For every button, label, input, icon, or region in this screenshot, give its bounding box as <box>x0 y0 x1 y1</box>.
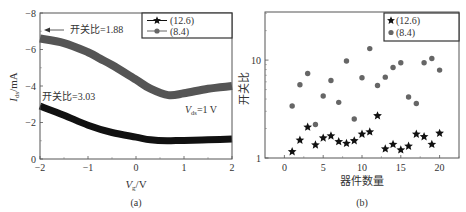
x-tick-label: 0 <box>134 162 139 173</box>
annotation-on-off-ratio-188: 开关比=1.88 <box>70 23 123 35</box>
star-data-point <box>427 140 436 148</box>
curve-8-4 <box>40 39 232 96</box>
y-tick-label: 0 <box>31 154 36 165</box>
panel-b-points <box>288 46 444 155</box>
circle-data-point <box>321 93 326 98</box>
star-data-point <box>358 130 367 138</box>
star-data-point <box>334 137 343 145</box>
star-data-point <box>381 144 390 152</box>
legend-label-12-6: (12.6) <box>396 15 420 27</box>
panel-a-legend: (12.6) (8.4) <box>142 13 232 38</box>
y-tick-label: 1 <box>256 153 261 164</box>
y-tick-label: −6 <box>25 44 36 55</box>
circle-data-point <box>383 74 388 79</box>
annotation-vds: Vds=1 V <box>185 104 218 116</box>
circle-data-point <box>414 101 419 106</box>
star-data-point <box>412 130 421 138</box>
x-tick-label: −2 <box>35 162 46 173</box>
circle-data-point <box>367 46 372 51</box>
y-tick-label: −2 <box>25 117 36 128</box>
star-data-point <box>420 132 429 140</box>
y-tick-label: −8 <box>25 8 36 19</box>
panel-b-ylabel: 开关比 <box>237 72 250 105</box>
circle-marker-icon <box>388 30 393 35</box>
star-data-point <box>389 140 398 148</box>
x-tick-label: 1 <box>182 162 187 173</box>
star-data-point <box>311 140 320 148</box>
star-data-point <box>435 129 444 137</box>
circle-data-point <box>429 56 434 61</box>
circle-data-point <box>313 122 318 127</box>
panel-b-xlabel: 器件数量 <box>340 175 384 187</box>
annotation-on-off-ratio-303: 开关比=3.03 <box>42 90 95 102</box>
star-data-point <box>303 122 312 130</box>
star-data-point <box>373 111 382 119</box>
circle-marker-icon <box>154 28 159 33</box>
circle-data-point <box>390 65 395 70</box>
x-tick-label: 2 <box>230 162 235 173</box>
legend-label-8-4: (8.4) <box>170 26 189 38</box>
figure: −2−1012−8−6−4−20 Ids/mA Vg/V 开关比=1.88 开关… <box>0 0 466 212</box>
y-tick-label: −4 <box>25 81 36 92</box>
star-data-point <box>319 133 328 141</box>
panel-b-legend: (12.6) (8.4) <box>384 13 459 41</box>
circle-data-point <box>437 67 442 72</box>
legend-label-8-4: (8.4) <box>396 27 415 39</box>
panel-b-scatter-chart: 05101520110 开关比 器件数量 (12.6) (8.4) (b) <box>237 12 459 209</box>
star-data-point <box>365 127 374 135</box>
arrow-left-icon <box>44 28 50 33</box>
panel-a-caption: (a) <box>130 197 141 209</box>
circle-data-point <box>305 71 310 76</box>
star-data-point <box>296 136 305 144</box>
circle-data-point <box>375 83 380 88</box>
x-tick-label: 5 <box>321 162 326 173</box>
star-data-point <box>350 136 359 144</box>
x-tick-label: 0 <box>282 162 287 173</box>
x-tick-label: 20 <box>435 162 445 173</box>
circle-data-point <box>398 60 403 65</box>
panel-b-caption: (b) <box>356 197 368 209</box>
y-tick-label: 10 <box>251 55 261 66</box>
x-tick-label: 15 <box>396 162 406 173</box>
panel-a-line-chart: −2−1012−8−6−4−20 Ids/mA Vg/V 开关比=1.88 开关… <box>7 8 235 210</box>
circle-data-point <box>336 100 341 105</box>
circle-data-point <box>352 116 357 121</box>
x-tick-label: 10 <box>357 162 367 173</box>
panel-a-curves <box>40 39 232 141</box>
circle-data-point <box>406 94 411 99</box>
star-data-point <box>288 147 297 155</box>
star-data-point <box>404 142 413 150</box>
star-data-point <box>342 139 351 147</box>
x-tick-label: −1 <box>83 162 94 173</box>
circle-data-point <box>344 58 349 63</box>
panel-a-ylabel: Ids/mA <box>7 72 21 103</box>
circle-data-point <box>289 103 294 108</box>
panel-a-xlabel: Vg/V <box>125 178 146 192</box>
circle-data-point <box>421 60 426 65</box>
circle-data-point <box>359 75 364 80</box>
star-data-point <box>327 131 336 139</box>
circle-data-point <box>328 78 333 83</box>
circle-data-point <box>297 82 302 87</box>
star-data-point <box>396 145 405 153</box>
